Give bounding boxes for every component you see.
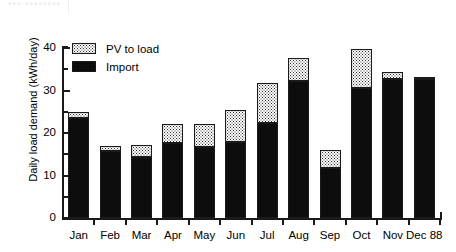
x-tick [93, 218, 95, 225]
bar-segment-pv-to-load [162, 124, 183, 143]
bar-segment-pv-to-load [194, 124, 215, 147]
legend-label: Import [106, 61, 139, 73]
bar-segment-pv-to-load [225, 110, 246, 142]
x-tick [125, 218, 127, 225]
bar-group [225, 48, 246, 218]
x-tick [439, 218, 441, 225]
bar-group [288, 48, 309, 218]
x-tick [408, 218, 410, 225]
y-axis-title: Daily load demand (kWh/day) [28, 30, 39, 190]
bar-group [320, 48, 341, 218]
bar-segment-import [257, 123, 278, 218]
y-tick-label-0: 0 [26, 212, 56, 224]
legend-item: Import [72, 60, 212, 75]
legend-swatch-pv [72, 43, 96, 54]
bar-segment-import [320, 168, 341, 218]
chart-legend: PV to loadImport [72, 42, 212, 78]
x-tick [156, 218, 158, 225]
bar-segment-import [194, 147, 215, 218]
x-tick [251, 218, 253, 225]
bar-segment-import [225, 142, 246, 218]
x-tick [282, 218, 284, 225]
bar-segment-pv-to-load [257, 83, 278, 123]
bar-segment-import [68, 118, 89, 218]
bar-segment-import [100, 151, 121, 218]
bar-group [351, 48, 372, 218]
x-tick [313, 218, 315, 225]
x-tick-label-dec-88: Dec 88 [400, 229, 448, 241]
x-tick [345, 218, 347, 225]
bar-segment-import [351, 88, 372, 218]
bar-group [257, 48, 278, 218]
bar-segment-pv-to-load [351, 49, 372, 88]
stacked-bar-chart: 010203040 Daily load demand (kWh/day) Ja… [0, 0, 456, 252]
bar-segment-import [288, 81, 309, 218]
legend-item: PV to load [72, 42, 212, 57]
bar-segment-pv-to-load [288, 58, 309, 81]
bar-group [382, 48, 403, 218]
legend-label: PV to load [106, 43, 159, 55]
bar-segment-pv-to-load [414, 77, 435, 79]
bar-segment-pv-to-load [131, 145, 152, 157]
x-tick [219, 218, 221, 225]
bar-segment-pv-to-load [382, 72, 403, 79]
bar-segment-pv-to-load [100, 146, 121, 151]
bar-segment-pv-to-load [68, 112, 89, 118]
bar-segment-import [131, 157, 152, 218]
x-tick [376, 218, 378, 225]
bar-segment-import [382, 79, 403, 218]
bar-segment-pv-to-load [320, 150, 341, 168]
legend-swatch-import [72, 61, 96, 72]
bar-group [414, 48, 435, 218]
x-tick [188, 218, 190, 225]
bar-segment-import [162, 143, 183, 218]
bar-segment-import [414, 79, 435, 218]
